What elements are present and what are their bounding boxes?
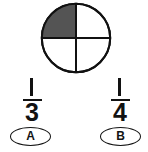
fraction-a-denominator: 3 (4, 100, 60, 125)
fraction-worksheet-item: 1 3 A 1 4 B (0, 0, 148, 152)
fraction-b-denominator: 4 (92, 100, 148, 125)
answer-choice-b[interactable]: 1 4 B (92, 76, 148, 122)
choice-b-letter-oval[interactable]: B (100, 127, 141, 146)
choice-a-letter: A (11, 128, 50, 144)
fraction-circle-figure (39, 2, 114, 74)
fraction-a: 1 3 (4, 76, 60, 122)
choice-b-letter: B (101, 128, 140, 144)
choice-a-letter-oval[interactable]: A (10, 127, 51, 146)
fraction-b: 1 4 (92, 76, 148, 122)
fraction-a-numerator: 1 (4, 76, 60, 96)
answer-choice-a[interactable]: 1 3 A (4, 76, 60, 122)
fraction-b-numerator: 1 (92, 76, 148, 96)
